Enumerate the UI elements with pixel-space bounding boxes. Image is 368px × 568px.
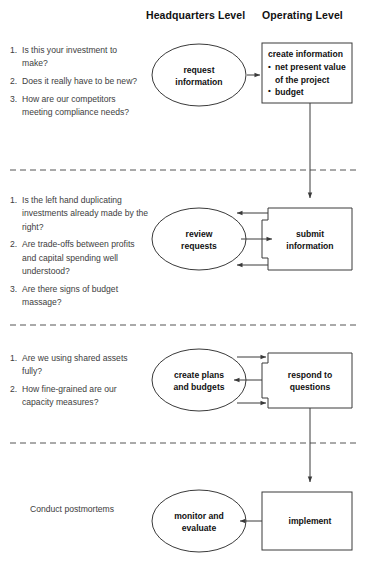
column-header-headquarters: Headquarters Level (146, 9, 245, 21)
question-number: 2. (10, 383, 17, 396)
question-number: 2. (10, 75, 17, 88)
question-list-plans: 1. Are we using shared assets fully? 2. … (10, 352, 150, 414)
question-text: How fine-grained are our capacity measur… (22, 383, 150, 410)
question-number: 3. (10, 93, 17, 106)
node-monitor-and-evaluate (152, 490, 246, 552)
question-number: 2. (10, 238, 17, 251)
node-label-create-plans-and-budgets: create plansand budgets (150, 369, 248, 394)
list-item: 2. How fine-grained are our capacity mea… (10, 383, 150, 410)
question-text: Are we using shared assets fully? (22, 352, 150, 379)
box-title: create information (268, 48, 348, 60)
question-number: 1. (10, 44, 17, 57)
column-header-operating: Operating Level (262, 9, 343, 21)
question-number: 3. (10, 283, 17, 296)
node-request-information (152, 44, 246, 106)
list-item: 1. Is the left hand duplicating investme… (10, 194, 150, 234)
question-text: Is the left hand duplicating investments… (22, 194, 150, 234)
list-item: 2. Are trade-offs between profits and ca… (10, 238, 150, 278)
list-item: 1. Are we using shared assets fully? (10, 352, 150, 379)
node-label-request-information: requestinformation (152, 64, 246, 89)
question-text: Are there signs of budget massage? (22, 283, 150, 310)
node-label-implement: implement (272, 515, 348, 527)
node-submit-information (262, 208, 352, 270)
list-item: net present value of the project (268, 61, 348, 85)
node-respond-to-questions (262, 353, 352, 408)
box-bullet-list: net present value of the project budget (268, 61, 348, 98)
diagram-canvas: Headquarters Level Operating Level (0, 0, 368, 568)
list-item: 3. Are there signs of budget massage? (10, 283, 150, 310)
question-text: Are trade-offs between profits and capit… (22, 238, 150, 278)
node-label-review-requests: reviewrequests (152, 228, 246, 253)
node-label-create-information: create information net present value of … (268, 48, 348, 98)
node-label-submit-information: submitinformation (272, 228, 348, 253)
list-item: 2. Does it really have to be new? (10, 75, 142, 88)
question-text: How are our competitors meeting complian… (22, 93, 142, 120)
question-number: 1. (10, 352, 17, 365)
node-create-information (262, 43, 352, 103)
question-text: Is this your investment to make? (22, 44, 142, 71)
question-list-request: 1. Is this your investment to make? 2. D… (10, 44, 142, 124)
list-item: 1. Is this your investment to make? (10, 44, 142, 71)
node-label-respond-to-questions: respond toquestions (272, 369, 348, 394)
question-list-review: 1. Is the left hand duplicating investme… (10, 194, 150, 314)
list-item: budget (268, 86, 348, 98)
question-number: 1. (10, 194, 17, 207)
node-review-requests (152, 208, 246, 270)
node-implement (262, 492, 352, 550)
list-item: 3. How are our competitors meeting compl… (10, 93, 142, 120)
question-text: Does it really have to be new? (22, 75, 142, 88)
node-create-plans-and-budgets (152, 349, 246, 411)
note-conduct-postmortems: Conduct postmortems (30, 503, 170, 516)
